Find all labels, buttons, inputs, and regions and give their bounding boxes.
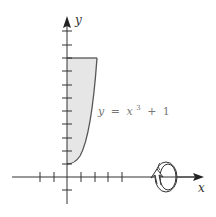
curve-equation-label: y = x 3 + 1: [97, 100, 170, 118]
y-axis-label: y: [74, 13, 82, 27]
x-axis-label: x: [198, 181, 205, 195]
rotation-arrow-icon: [151, 162, 196, 192]
revolution-diagram: y x y = x 3 + 1: [0, 0, 216, 217]
